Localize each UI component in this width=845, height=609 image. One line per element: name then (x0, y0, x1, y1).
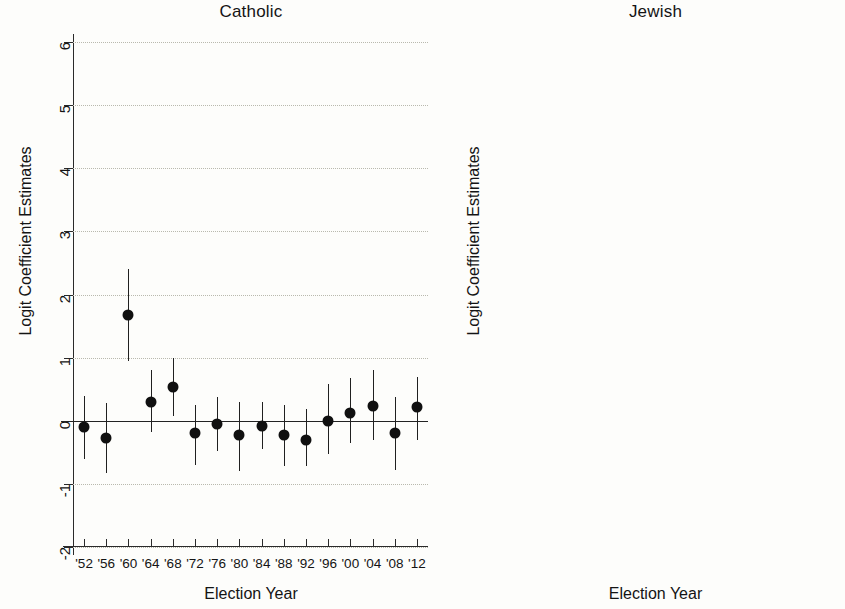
coefficient-point (345, 407, 356, 418)
gridline (73, 484, 428, 485)
y-axis-tick-label: 2 (56, 295, 73, 303)
coefficient-point (300, 434, 311, 445)
x-axis-tick-label: '04 (364, 556, 382, 571)
gridline (73, 105, 428, 106)
x-axis-tick (417, 539, 418, 547)
x-axis-label: Election Year (0, 585, 466, 603)
x-axis-tick (395, 539, 396, 547)
gridline (73, 547, 428, 548)
coefficient-point (79, 422, 90, 433)
coefficient-point (212, 418, 223, 429)
x-axis-tick (350, 539, 351, 547)
coefficient-point (411, 401, 422, 412)
y-axis-tick-label: 0 (56, 421, 73, 429)
x-axis-tick-label: '12 (408, 556, 426, 571)
x-axis-tick (306, 539, 307, 547)
y-axis-tick-label: 5 (56, 105, 73, 113)
y-axis-tick-label: 3 (56, 231, 73, 239)
x-axis-tick-label: '72 (186, 556, 204, 571)
x-axis-tick (328, 539, 329, 547)
coefficient-point (123, 309, 134, 320)
coefficient-point (167, 382, 178, 393)
coefficient-point (278, 429, 289, 440)
gridline (73, 42, 428, 43)
coefficient-plot-figure: Catholic Logit Coefficient Estimates -2-… (0, 0, 845, 609)
x-axis-tick-label: '08 (386, 556, 404, 571)
x-axis-tick (151, 539, 152, 547)
x-axis-tick-label: '64 (142, 556, 160, 571)
x-axis-tick-label: '60 (120, 556, 138, 571)
panel-title-catholic: Catholic (0, 2, 466, 22)
coefficient-point (389, 428, 400, 439)
y-axis-label: Logit Coefficient Estimates (465, 111, 483, 371)
coefficient-point (256, 420, 267, 431)
gridline (73, 231, 428, 232)
x-axis-tick (373, 539, 374, 547)
gridline (73, 168, 428, 169)
x-axis-tick-label: '00 (342, 556, 360, 571)
x-axis-tick (239, 539, 240, 547)
coefficient-point (323, 415, 334, 426)
x-axis-label: Election Year (430, 585, 845, 603)
x-axis-tick-label: '80 (231, 556, 249, 571)
y-axis-tick-label: 1 (56, 358, 73, 366)
x-axis-tick-label: '84 (253, 556, 271, 571)
coefficient-point (145, 396, 156, 407)
y-axis-label: Logit Coefficient Estimates (17, 111, 35, 371)
x-axis-tick-label: '52 (75, 556, 93, 571)
coefficient-point (234, 429, 245, 440)
panel-jewish: Jewish Logit Coefficient Estimates -2-10… (430, 0, 845, 609)
y-axis-tick-label: 4 (56, 168, 73, 176)
x-axis-tick (106, 539, 107, 547)
x-axis-tick (262, 539, 263, 547)
x-axis-tick (173, 539, 174, 547)
y-axis-tick-label: -1 (56, 484, 73, 497)
x-axis-tick-label: '92 (297, 556, 315, 571)
x-axis-tick-label: '56 (97, 556, 115, 571)
plot-area-catholic: -2-10123456'52'56'60'64'68'72'76'80'84'8… (73, 42, 428, 547)
gridline (73, 295, 428, 296)
x-axis-tick-label: '96 (319, 556, 337, 571)
panel-title-jewish: Jewish (430, 2, 845, 22)
coefficient-point (101, 433, 112, 444)
x-axis-tick-label: '76 (208, 556, 226, 571)
x-axis-tick (84, 539, 85, 547)
x-axis-tick (284, 539, 285, 547)
gridline (73, 358, 428, 359)
y-axis-tick-label: -2 (56, 547, 73, 560)
x-axis-tick-label: '68 (164, 556, 182, 571)
panel-catholic: Catholic Logit Coefficient Estimates -2-… (0, 0, 430, 609)
coefficient-point (190, 428, 201, 439)
x-axis-tick (128, 539, 129, 547)
x-axis-tick-label: '88 (275, 556, 293, 571)
coefficient-point (367, 401, 378, 412)
x-axis-tick (195, 539, 196, 547)
y-axis-tick-label: 6 (56, 42, 73, 50)
x-axis-tick (217, 539, 218, 547)
